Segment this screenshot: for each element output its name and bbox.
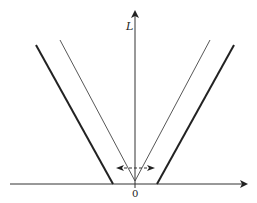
right-arrowhead-icon <box>147 165 155 171</box>
diagram-canvas: L 0 <box>0 0 257 203</box>
left-thick-line <box>36 45 113 184</box>
left-arrowhead-icon <box>116 165 124 171</box>
origin-label: 0 <box>132 188 138 199</box>
y-axis-label: L <box>125 20 133 33</box>
right-thick-line <box>157 45 234 184</box>
